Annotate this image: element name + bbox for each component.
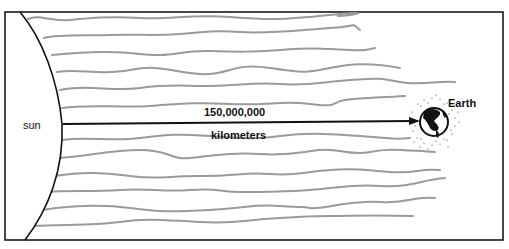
sun-earth-diagram: [0, 0, 509, 249]
earth-label: Earth: [448, 97, 476, 109]
distance-value: 150,000,000: [204, 106, 265, 118]
earth-globe: [420, 108, 448, 138]
distance-unit: kilometers: [211, 129, 266, 141]
distance-arrow: [63, 117, 420, 125]
sunlight-rays: [28, 13, 455, 226]
sun-label: sun: [23, 119, 41, 131]
